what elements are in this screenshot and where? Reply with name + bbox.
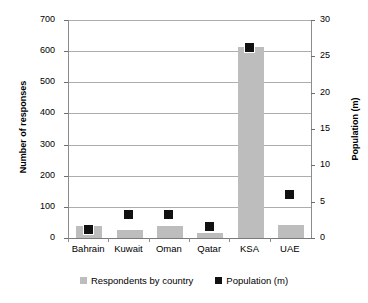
marker-ksa [244,42,255,53]
y-axis-left-tick-label: 600 [15,45,55,55]
y-axis-right-tick [311,238,315,239]
y-axis-right-tick-label: 20 [320,87,354,97]
marker-kuwait [123,209,134,220]
y-axis-right-tick-label: 30 [320,14,354,24]
chart-container: Number of responses Population (m) Respo… [0,0,368,303]
y-axis-left-tick [64,176,68,177]
gridline [69,82,311,83]
x-axis-label-ksa: KSA [229,243,269,254]
chart-legend: Respondents by country Population (m) [0,275,368,286]
marker-swatch-icon [215,277,222,284]
marker-qatar [204,221,215,232]
gridline [69,51,311,52]
plot-area [68,20,312,238]
y-axis-right-tick [311,56,315,57]
x-axis-label-kuwait: Kuwait [108,243,148,254]
y-axis-left-tick [64,145,68,146]
y-axis-right-tick [311,93,315,94]
y-axis-right-tick-label: 25 [320,50,354,60]
y-axis-right-tick-label: 0 [320,232,354,242]
bar-kuwait [117,230,143,238]
y-axis-right-tick-label: 5 [320,196,354,206]
x-axis-tick [270,238,271,242]
legend-label-respondents: Respondents by country [91,275,193,286]
x-axis-label-bahrain: Bahrain [68,243,108,254]
y-axis-left-tick [64,207,68,208]
y-axis-right-tick [311,20,315,21]
legend-item-population: Population (m) [215,275,288,286]
bar-oman [157,226,183,238]
x-axis-label-qatar: Qatar [189,243,229,254]
y-axis-left-tick-label: 500 [15,76,55,86]
y-axis-right-tick [311,165,315,166]
y-axis-right-tick [311,129,315,130]
x-axis-label-oman: Oman [149,243,189,254]
y-axis-right-tick [311,202,315,203]
marker-uae [284,189,295,200]
bar-swatch-icon [80,277,87,284]
marker-bahrain [83,224,94,235]
gridline [69,20,311,21]
x-axis-label-uae: UAE [270,243,310,254]
gridline [69,176,311,177]
bar-uae [278,225,304,238]
y-axis-left-tick [64,82,68,83]
gridline [69,207,311,208]
y-axis-left-tick [64,20,68,21]
y-axis-left-tick [64,113,68,114]
legend-label-population: Population (m) [226,275,288,286]
y-axis-left-tick-label: 200 [15,170,55,180]
y-axis-left-tick-label: 700 [15,14,55,24]
x-axis-tick [189,238,190,242]
y-axis-right-tick-label: 15 [320,123,354,133]
x-axis-tick [149,238,150,242]
y-axis-right-tick-label: 10 [320,159,354,169]
y-axis-left-tick-label: 300 [15,139,55,149]
legend-item-respondents: Respondents by country [80,275,193,286]
bar-ksa [238,47,264,238]
gridline [69,145,311,146]
y-axis-left-tick-label: 400 [15,107,55,117]
y-axis-left-tick-label: 0 [15,232,55,242]
y-axis-left-tick [64,51,68,52]
x-axis-tick [68,238,69,242]
x-axis-tick [108,238,109,242]
marker-oman [163,209,174,220]
gridline [69,113,311,114]
y-axis-left-tick-label: 100 [15,201,55,211]
x-axis-tick [229,238,230,242]
